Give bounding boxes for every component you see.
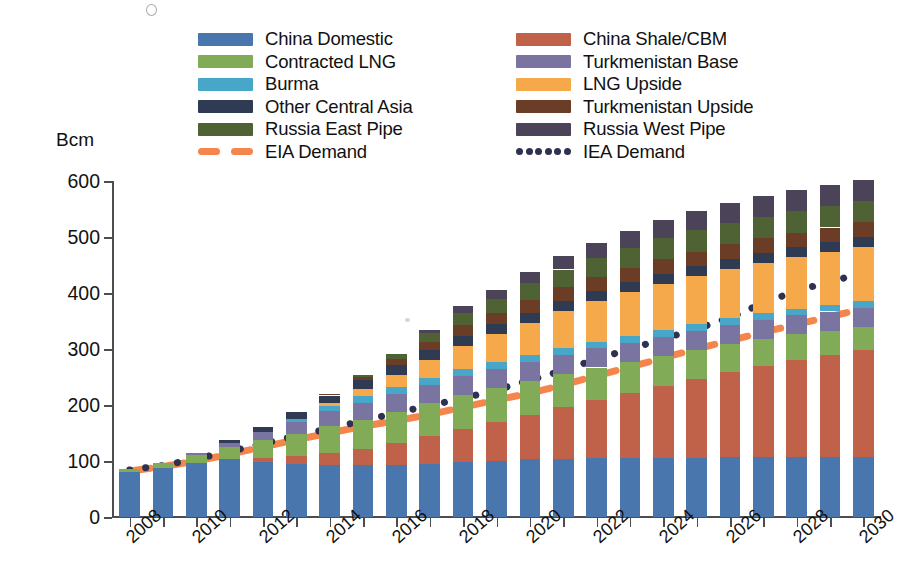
bar-2019[interactable] <box>486 290 507 517</box>
bar-segment <box>686 379 707 457</box>
bar-segment <box>786 190 807 211</box>
bar-segment <box>653 386 674 458</box>
bar-segment <box>520 300 541 312</box>
bar-2028[interactable] <box>786 190 807 517</box>
bar-segment <box>553 374 574 408</box>
bar-segment <box>419 436 440 464</box>
bar-segment <box>586 400 607 458</box>
bar-segment <box>686 331 707 350</box>
bar-segment <box>553 311 574 348</box>
legend-item[interactable]: Turkmenistan Upside <box>516 96 836 119</box>
bar-segment <box>786 247 807 257</box>
bar-2022[interactable] <box>586 243 607 517</box>
bar-2015[interactable] <box>353 375 374 517</box>
y-tick-label: 500 <box>40 226 100 249</box>
legend-item[interactable]: China Domestic <box>198 28 498 51</box>
y-tick <box>104 349 112 351</box>
bar-2029[interactable] <box>820 185 841 517</box>
bar-segment <box>820 331 841 356</box>
bar-2021[interactable] <box>553 256 574 517</box>
bar-2024[interactable] <box>653 220 674 517</box>
bar-segment <box>753 313 774 320</box>
legend-swatch <box>516 78 571 91</box>
legend-item[interactable]: IEA Demand <box>516 141 836 164</box>
legend-swatch <box>198 33 253 46</box>
legend-item[interactable]: EIA Demand <box>198 141 498 164</box>
bar-segment <box>419 360 440 378</box>
bar-segment <box>486 369 507 388</box>
legend-item[interactable]: Russia East Pipe <box>198 118 498 141</box>
bar-segment <box>319 411 340 426</box>
bar-2013[interactable] <box>286 412 307 517</box>
bar-segment <box>853 247 874 301</box>
bar-segment <box>353 420 374 449</box>
bar-2023[interactable] <box>620 231 641 517</box>
bar-2014[interactable] <box>319 394 340 517</box>
bar-2025[interactable] <box>686 211 707 517</box>
bar-2010[interactable] <box>186 453 207 517</box>
bar-segment <box>720 457 741 517</box>
bar-segment <box>486 299 507 314</box>
bar-segment <box>386 394 407 412</box>
bar-segment <box>820 312 841 331</box>
bar-segment <box>553 270 574 288</box>
bar-segment <box>520 381 541 415</box>
bar-segment <box>553 301 574 311</box>
bar-segment <box>720 244 741 259</box>
bar-segment <box>386 354 407 360</box>
bar-segment <box>620 458 641 517</box>
bar-segment <box>219 447 240 459</box>
bar-segment <box>219 440 240 442</box>
bar-segment <box>520 323 541 355</box>
legend-item[interactable]: Turkmenistan Base <box>516 51 836 74</box>
legend-item[interactable]: LNG Upside <box>516 73 836 96</box>
bar-segment <box>653 356 674 386</box>
bar-segment <box>486 461 507 517</box>
legend-item[interactable]: Russia West Pipe <box>516 118 836 141</box>
bar-segment <box>853 201 874 222</box>
bar-segment <box>386 359 407 365</box>
bar-segment <box>586 243 607 259</box>
bar-2016[interactable] <box>386 353 407 517</box>
bar-2017[interactable] <box>419 330 440 517</box>
legend-item[interactable]: Contracted LNG <box>198 51 498 74</box>
bar-segment <box>453 369 474 376</box>
bar-segment <box>486 290 507 299</box>
legend-label: Russia West Pipe <box>583 118 725 140</box>
bar-segment <box>720 325 741 344</box>
legend-item[interactable]: Other Central Asia <box>198 96 498 119</box>
bar-2027[interactable] <box>753 196 774 517</box>
bar-segment <box>820 252 841 305</box>
legend-label: Burma <box>265 73 319 95</box>
bar-segment <box>620 393 641 458</box>
legend-swatch <box>198 123 253 136</box>
bar-2012[interactable] <box>253 427 274 517</box>
bar-segment <box>853 308 874 327</box>
legend-item[interactable]: China Shale/CBM <box>516 28 836 51</box>
bar-segment <box>620 231 641 248</box>
bar-segment <box>853 222 874 237</box>
legend-item[interactable]: Burma <box>198 73 498 96</box>
bar-2020[interactable] <box>520 272 541 517</box>
bar-2026[interactable] <box>720 203 741 517</box>
bar-segment <box>620 362 641 393</box>
legend-label: EIA Demand <box>265 141 367 163</box>
bar-segment <box>653 238 674 259</box>
legend-swatch <box>198 100 253 113</box>
bar-segment <box>586 342 607 349</box>
bar-2030[interactable] <box>853 180 874 517</box>
bar-segment <box>253 432 274 440</box>
bar-2018[interactable] <box>453 306 474 517</box>
bar-segment <box>319 426 340 453</box>
bar-segment <box>753 253 774 263</box>
bar-2011[interactable] <box>219 440 240 517</box>
bar-segment <box>453 346 474 370</box>
bar-2008[interactable] <box>119 469 140 517</box>
bar-segment <box>653 330 674 337</box>
bar-segment <box>686 276 707 324</box>
bar-segment <box>253 440 274 458</box>
bar-segment <box>419 333 440 342</box>
bar-segment <box>553 287 574 300</box>
bar-segment <box>353 377 374 380</box>
